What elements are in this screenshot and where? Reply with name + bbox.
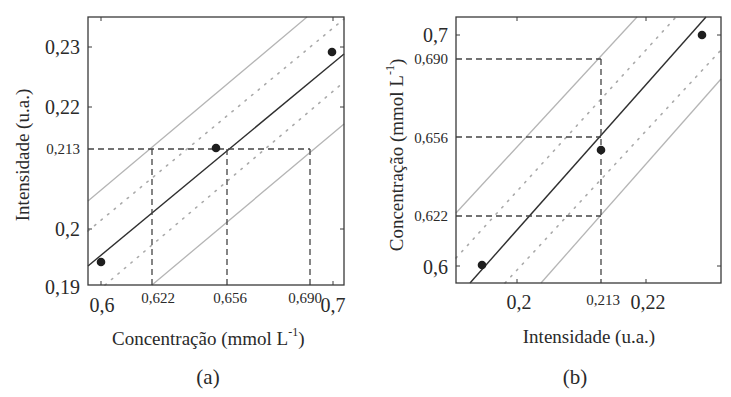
caption-b: (b)	[563, 365, 588, 389]
x-tick-label: 0,6	[90, 294, 115, 316]
x-tick-label: 0,22	[631, 291, 666, 313]
figure: 0,23 0,22 0,213 0,2 0,19 0,6 0,622 0,656…	[0, 0, 731, 397]
x-tick-label: 0,2	[507, 291, 532, 313]
panel-b: 0,7 0,690 0,656 0,622 0,6 0,2 0,213 0,22…	[383, 17, 721, 389]
caption-a: (a)	[196, 365, 219, 389]
data-point	[698, 31, 707, 40]
y-axis-label: Intensidade (u.a.)	[12, 89, 34, 221]
data-point	[478, 261, 487, 270]
x-axis-label: Intensidade (u.a.)	[523, 326, 655, 348]
y-tick-label: 0,23	[45, 36, 80, 58]
x-tick-label: 0,656	[213, 290, 247, 306]
x-tick-label: 0,622	[141, 290, 175, 306]
y-tick-label: 0,7	[423, 24, 448, 46]
data-point	[212, 144, 221, 153]
prediction-band-lower	[152, 124, 344, 285]
prediction-band-upper	[456, 17, 637, 213]
regression-line	[88, 54, 344, 266]
prediction-band-lower	[541, 79, 721, 283]
y-tick-label: 0,19	[45, 276, 80, 298]
data-point	[97, 258, 106, 267]
regression-line	[470, 17, 706, 283]
x-tick-label: 0,7	[321, 294, 346, 316]
y-tick-label: 0,690	[414, 51, 448, 67]
y-tick-label: 0,22	[45, 96, 80, 118]
confidence-band-lower	[105, 82, 344, 285]
prediction-band-upper	[88, 17, 307, 201]
y-tick-label: 0,656	[414, 130, 448, 146]
confidence-band-upper	[88, 19, 344, 231]
y-tick-label: 0,2	[55, 218, 80, 240]
panel-a: 0,23 0,22 0,213 0,2 0,19 0,6 0,622 0,656…	[12, 17, 346, 389]
data-points	[97, 48, 337, 267]
confidence-band-lower	[505, 50, 721, 283]
y-axis-label: Concentração (mmol L-1)	[383, 59, 408, 252]
inverse-prediction-guides	[88, 149, 310, 285]
data-point	[597, 146, 606, 155]
y-tick-label: 0,213	[46, 141, 80, 157]
y-tick-label: 0,622	[414, 208, 448, 224]
x-tick-label: 0,690	[288, 290, 322, 306]
data-point	[328, 48, 337, 57]
y-tick-label: 0,6	[423, 256, 448, 278]
x-tick-label: 0,213	[586, 292, 620, 308]
inverse-prediction-guides	[456, 59, 601, 283]
x-axis-label: Concentração (mmol L-1)	[112, 325, 305, 350]
